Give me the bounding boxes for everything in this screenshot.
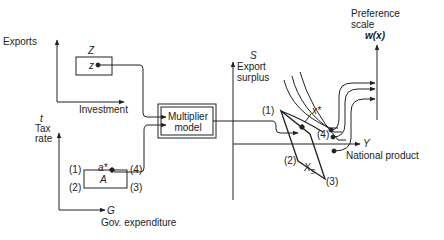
national-product-label: National product	[346, 150, 419, 161]
x-corner-1: (1)	[262, 105, 274, 116]
level-curve-1	[284, 80, 338, 128]
model-label: model	[160, 122, 216, 133]
x-corner-3: (3)	[326, 176, 338, 187]
s-symbol: S	[250, 50, 257, 61]
xs-main: X	[304, 162, 311, 173]
x-star-label: x*	[312, 105, 321, 116]
xs-label: Xs	[304, 162, 315, 177]
g-symbol: G	[107, 205, 115, 216]
level-curve-2	[292, 76, 342, 132]
a-star-label: a*	[98, 162, 107, 173]
a-corner-3: (3)	[130, 182, 142, 193]
z-point-label: z	[89, 60, 94, 71]
x-corner-2: (2)	[284, 155, 296, 166]
export-label: Export	[237, 61, 266, 72]
x-corner-4: (4)	[317, 129, 329, 140]
a-corner-2: (2)	[69, 182, 81, 193]
a-corner-1: (1)	[69, 164, 81, 175]
surplus-label: surplus	[237, 72, 269, 83]
rate-label: rate	[35, 133, 52, 144]
y-symbol: Y	[363, 138, 370, 149]
a-box-label: A	[100, 174, 107, 185]
multiplier-label: Multiplier	[160, 111, 216, 122]
exports-label: Exports	[3, 36, 37, 47]
z-box-label: Z	[88, 45, 94, 56]
a-star-point	[110, 168, 114, 172]
z-point	[96, 63, 100, 67]
investment-label: Investment	[79, 104, 128, 115]
gov-expenditure-label: Gov. expenditure	[101, 217, 176, 228]
a-corner-4: (4)	[130, 164, 142, 175]
preference-label: Preference	[351, 8, 400, 19]
x-star-point	[300, 125, 304, 129]
scale-label: scale	[351, 19, 374, 30]
w-of-x-label: w(x)	[365, 30, 385, 41]
xs-subscript: s	[311, 166, 316, 176]
z-box	[76, 57, 112, 75]
